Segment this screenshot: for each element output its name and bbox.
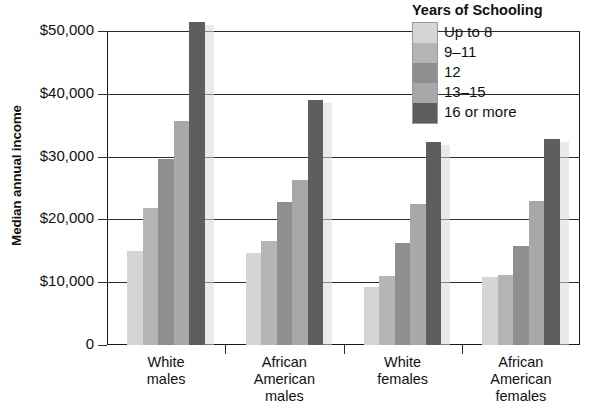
bar (246, 253, 262, 345)
bar (292, 180, 308, 345)
legend-swatch (413, 23, 437, 43)
legend-label: Up to 8 (444, 22, 517, 42)
x-axis-group-tick (462, 345, 463, 354)
x-axis-group-tick (344, 345, 345, 354)
legend-swatch (413, 83, 437, 103)
y-axis-title: Median annual income (9, 76, 24, 276)
legend-swatch (413, 63, 437, 83)
bar (143, 208, 159, 345)
bar-shadow (205, 25, 214, 345)
legend: Years of Schooling Up to 89–111213–1516 … (404, 2, 600, 126)
bar (174, 121, 190, 345)
bar (395, 243, 411, 345)
y-tick-label-50000: $50,000 (0, 21, 94, 38)
legend-swatch-stack (412, 22, 438, 124)
x-axis-category-label: African American females (462, 354, 580, 405)
bar (277, 202, 293, 345)
x-axis-category-label: White males (107, 354, 225, 388)
bar-shadow (441, 145, 450, 345)
y-tick-label-30000: $30,000 (0, 147, 94, 164)
bar-shadow (323, 103, 332, 345)
legend-label: 12 (444, 62, 517, 82)
bar (544, 139, 560, 345)
y-tick-label-40000: $40,000 (0, 84, 94, 101)
x-axis-group-tick (225, 345, 226, 354)
y-tick-mark-0 (98, 345, 107, 346)
bar (379, 276, 395, 345)
y-tick-mark-20000 (98, 219, 107, 220)
legend-label-list: Up to 89–111213–1516 or more (444, 22, 517, 122)
y-tick-label-10000: $10,000 (0, 272, 94, 289)
bar (189, 22, 205, 345)
legend-label: 9–11 (444, 42, 517, 62)
y-tick-mark-10000 (98, 282, 107, 283)
bar (498, 275, 514, 345)
y-tick-label-20000: $20,000 (0, 209, 94, 226)
legend-body: Up to 89–111213–1516 or more (404, 22, 600, 126)
bar (529, 201, 545, 345)
bar (158, 159, 174, 345)
bar-shadow (560, 142, 569, 345)
bar (261, 241, 277, 345)
y-tick-mark-30000 (98, 157, 107, 158)
bar (127, 251, 143, 345)
bar (410, 204, 426, 345)
bar (364, 287, 380, 345)
bar (513, 246, 529, 345)
y-tick-mark-50000 (98, 31, 107, 32)
bar-chart: Median annual income 0$10,000$20,000$30,… (0, 0, 602, 420)
legend-swatch (413, 43, 437, 63)
x-axis-category-label: White females (344, 354, 462, 388)
legend-label: 13–15 (444, 82, 517, 102)
legend-label: 16 or more (444, 102, 517, 122)
x-axis-category-label: African American males (225, 354, 343, 405)
legend-title: Years of Schooling (412, 2, 600, 18)
bar (482, 277, 498, 345)
legend-swatch (413, 103, 437, 123)
y-tick-label-0: 0 (0, 335, 94, 352)
bar (308, 100, 324, 345)
y-tick-mark-40000 (98, 94, 107, 95)
bar (426, 142, 442, 345)
